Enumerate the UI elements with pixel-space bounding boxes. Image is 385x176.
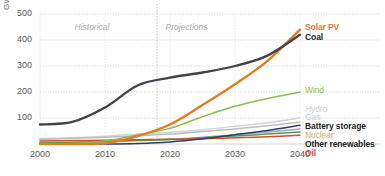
gw-capacity-line-chart: GW 100200300400500 20002010202020302040 … bbox=[0, 0, 385, 176]
x-tick-label: 2010 bbox=[85, 149, 125, 159]
annotation-projections: Projections bbox=[166, 22, 208, 32]
y-tick-label: 300 bbox=[6, 60, 32, 70]
series-label-coal: Coal bbox=[305, 32, 323, 42]
y-tick-label: 100 bbox=[6, 112, 32, 122]
y-tick-label: 500 bbox=[6, 8, 32, 18]
annotation-historical: Historical bbox=[75, 22, 110, 32]
x-tick-label: 2000 bbox=[20, 149, 60, 159]
x-tick-label: 2020 bbox=[150, 149, 190, 159]
y-tick-label: 200 bbox=[6, 86, 32, 96]
y-tick-label: 400 bbox=[6, 34, 32, 44]
series-label-wind: Wind bbox=[305, 85, 324, 95]
series-label-solar-pv: Solar PV bbox=[305, 22, 339, 32]
series-label-oil: Oil bbox=[305, 148, 316, 158]
x-tick-label: 2030 bbox=[215, 149, 255, 159]
